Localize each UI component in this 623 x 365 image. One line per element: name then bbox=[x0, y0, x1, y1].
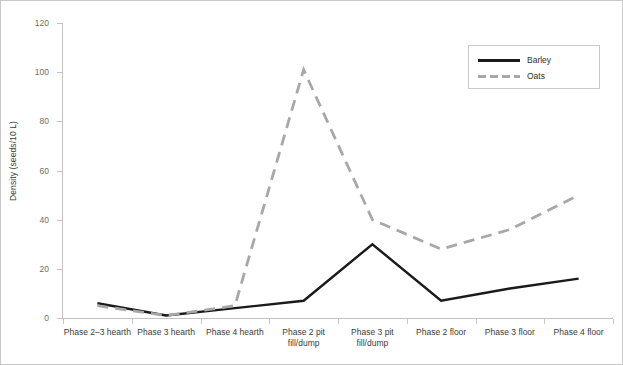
chart-legend: Barley Oats bbox=[468, 45, 600, 89]
y-tick-mark bbox=[57, 171, 62, 172]
x-category-label: Phase 2 pitfill/dump bbox=[269, 327, 338, 349]
x-category-label: Phase 3 hearth bbox=[132, 327, 201, 338]
y-tick-mark bbox=[57, 23, 62, 24]
x-category-label: Phase 4 floor bbox=[544, 327, 613, 338]
x-tick-mark bbox=[269, 319, 270, 324]
y-axis-title-text: Density (seeds/10 L) bbox=[8, 121, 18, 201]
line-chart: Density (seeds/10 L) 020406080100120 Pha… bbox=[0, 0, 623, 365]
x-category-label: Phase 2 floor bbox=[407, 327, 476, 338]
legend-label-oats: Oats bbox=[527, 71, 545, 81]
x-category-label-line: Phase 3 pit bbox=[338, 327, 407, 338]
x-category-label: Phase 2–3 hearth bbox=[63, 327, 132, 338]
x-category-label-line: Phase 2 floor bbox=[407, 327, 476, 338]
y-tick-mark bbox=[57, 72, 62, 73]
x-category-label-line: Phase 3 floor bbox=[476, 327, 545, 338]
y-tick-mark bbox=[57, 318, 62, 319]
legend-item-oats: Oats bbox=[478, 69, 545, 83]
x-category-label-line: Phase 2–3 hearth bbox=[63, 327, 132, 338]
x-tick-mark bbox=[338, 319, 339, 324]
y-tick-label: 20 bbox=[19, 264, 49, 274]
y-tick-mark bbox=[57, 220, 62, 221]
x-category-label-line: Phase 3 hearth bbox=[132, 327, 201, 338]
y-tick-mark bbox=[57, 121, 62, 122]
legend-item-barley: Barley bbox=[478, 53, 551, 67]
y-tick-label: 40 bbox=[19, 215, 49, 225]
x-tick-mark bbox=[407, 319, 408, 324]
x-tick-mark bbox=[544, 319, 545, 324]
x-category-label-line: fill/dump bbox=[269, 338, 338, 349]
legend-label-barley: Barley bbox=[527, 55, 551, 65]
x-tick-mark bbox=[132, 319, 133, 324]
legend-swatch-dashed-line-icon bbox=[478, 71, 520, 81]
y-tick-label: 100 bbox=[19, 67, 49, 77]
y-tick-label: 80 bbox=[19, 116, 49, 126]
x-tick-mark bbox=[613, 319, 614, 324]
y-tick-label: 0 bbox=[19, 313, 49, 323]
x-tick-mark bbox=[476, 319, 477, 324]
x-tick-mark bbox=[201, 319, 202, 324]
series-line-oats bbox=[97, 70, 578, 316]
x-category-label-line: Phase 2 pit bbox=[269, 327, 338, 338]
x-category-label-line: fill/dump bbox=[338, 338, 407, 349]
y-tick-mark bbox=[57, 269, 62, 270]
x-category-label: Phase 3 pitfill/dump bbox=[338, 327, 407, 349]
y-tick-label: 60 bbox=[19, 166, 49, 176]
legend-swatch-solid-line-icon bbox=[478, 55, 520, 65]
x-category-label-line: Phase 4 hearth bbox=[201, 327, 270, 338]
series-line-barley bbox=[97, 244, 578, 315]
x-category-label: Phase 3 floor bbox=[476, 327, 545, 338]
x-category-label: Phase 4 hearth bbox=[201, 327, 270, 338]
x-tick-mark bbox=[63, 319, 64, 324]
x-category-label-line: Phase 4 floor bbox=[544, 327, 613, 338]
y-tick-label: 120 bbox=[19, 18, 49, 28]
